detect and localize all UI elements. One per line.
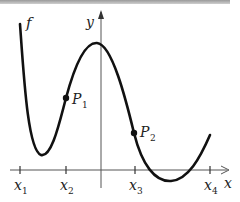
x-axis-label: x xyxy=(224,175,232,191)
y-axis-arrow-icon xyxy=(98,10,104,19)
function-label: f xyxy=(25,14,34,32)
point-p1-label: P 1 xyxy=(71,91,88,110)
svg-text:3: 3 xyxy=(137,186,143,196)
y-axis-label: y xyxy=(85,14,95,30)
svg-text:x: x xyxy=(14,177,22,193)
svg-text:2: 2 xyxy=(150,133,156,143)
tick-label-x1: x 1 xyxy=(14,177,28,196)
point-p2 xyxy=(131,130,137,136)
tick-label-x2: x 2 xyxy=(60,177,74,196)
tick-label-x4: x 4 xyxy=(204,177,218,196)
svg-text:P: P xyxy=(71,91,82,107)
tick-label-x3: x 3 xyxy=(129,177,143,196)
function-graph: f y x P 1 P 2 x 1 x 2 x 3 x 4 xyxy=(0,0,240,202)
svg-text:1: 1 xyxy=(22,186,28,196)
svg-text:2: 2 xyxy=(68,186,74,196)
svg-text:x: x xyxy=(204,177,212,193)
svg-text:x: x xyxy=(129,177,137,193)
svg-text:4: 4 xyxy=(212,186,218,196)
point-p1 xyxy=(63,95,69,101)
curve-f xyxy=(20,24,210,181)
svg-text:1: 1 xyxy=(82,100,88,110)
svg-text:x: x xyxy=(60,177,68,193)
svg-text:P: P xyxy=(139,124,150,140)
point-p2-label: P 2 xyxy=(139,124,156,143)
